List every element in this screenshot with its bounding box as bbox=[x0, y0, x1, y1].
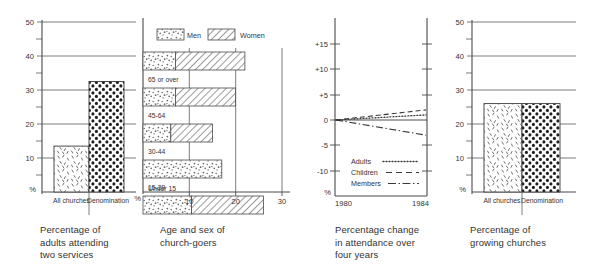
legend-label-women: Women bbox=[240, 31, 265, 40]
caption-line: growing churches bbox=[470, 237, 590, 250]
bar-men-45-64 bbox=[143, 88, 175, 106]
y-tick-label: 10 bbox=[26, 154, 34, 163]
bar-group-30-44: 30-44 bbox=[143, 124, 213, 155]
chart-panel-adults-two-services: 50 40 30 20 10 % All churches Denominati… bbox=[0, 0, 150, 278]
y-tick-label: 0 bbox=[324, 116, 328, 125]
bar-all-churches bbox=[484, 104, 522, 192]
bar-group-65-or-over: 65 or over bbox=[143, 52, 245, 83]
x-tick-label-1984: 1984 bbox=[412, 199, 429, 208]
y-tick-label: 30 bbox=[26, 86, 34, 95]
y-axis-unit-label: % bbox=[459, 185, 466, 194]
bar-group-under-15 bbox=[143, 196, 263, 214]
y-tick-label: 40 bbox=[26, 52, 34, 61]
minor-ticks bbox=[466, 39, 472, 175]
bar-women-65-or-over bbox=[175, 52, 245, 70]
category-label-under-15: Under 15 bbox=[148, 185, 176, 192]
y-tick-label: 50 bbox=[456, 18, 464, 27]
category-label-all-churches: All churches bbox=[53, 197, 91, 204]
minor-ticks bbox=[36, 39, 42, 175]
line-series-adults bbox=[336, 115, 426, 120]
figure-root: 50 40 30 20 10 % All churches Denominati… bbox=[0, 0, 592, 278]
y-tick-label: -5 bbox=[321, 141, 328, 150]
legend-label-men: Men bbox=[187, 31, 201, 40]
legend: Men Women bbox=[157, 29, 265, 40]
bar-denomination bbox=[522, 104, 560, 192]
y-tick-label: 20 bbox=[456, 120, 464, 129]
category-label-45-64: 45-64 bbox=[148, 112, 166, 119]
bar-women-30-44 bbox=[171, 124, 213, 142]
y-tick-label: 50 bbox=[26, 18, 34, 27]
major-ticks bbox=[467, 22, 472, 158]
bar-men-30-44 bbox=[143, 124, 171, 142]
major-ticks bbox=[37, 22, 42, 158]
category-label-denomination: Denomination bbox=[521, 197, 563, 204]
chart-panel-percentage-change: +15 +10 +5 0 -5 -10 % Adults Children Me… bbox=[295, 0, 445, 278]
line-series-children bbox=[336, 110, 426, 120]
y-tick-label: 30 bbox=[456, 86, 464, 95]
category-label-denomination: Denomination bbox=[87, 197, 129, 204]
panel-caption-growing-churches: Percentage of growing churches bbox=[470, 224, 590, 249]
x-tick-label: 10 bbox=[185, 197, 193, 206]
category-label-65-or-over: 65 or over bbox=[148, 76, 179, 83]
bar-men-15-29 bbox=[143, 160, 222, 178]
y-tick-label: 20 bbox=[26, 120, 34, 129]
x-ticks bbox=[189, 192, 282, 196]
y-tick-label: 10 bbox=[456, 154, 464, 163]
category-label-all-churches: All churches bbox=[483, 197, 521, 204]
x-axis-unit-label: % bbox=[134, 194, 141, 203]
legend-label-children: Children bbox=[351, 168, 378, 177]
y-tick-label: +10 bbox=[315, 65, 328, 74]
y-axis-unit-label: % bbox=[29, 185, 36, 194]
bar-women-under-15 bbox=[192, 196, 264, 214]
bar-chart-adults-two-services: 50 40 30 20 10 % All churches Denominati… bbox=[0, 0, 150, 215]
x-tick-label-1980: 1980 bbox=[335, 199, 352, 208]
x-tick-label: 30 bbox=[278, 197, 286, 206]
legend-swatch-men bbox=[157, 29, 184, 40]
chart-panel-age-and-sex: Men Women 65 or bbox=[130, 0, 305, 278]
bar-women-45-64 bbox=[175, 88, 235, 106]
y-tick-label: +5 bbox=[319, 91, 328, 100]
line-chart-percentage-change: +15 +10 +5 0 -5 -10 % Adults Children Me… bbox=[295, 0, 445, 215]
caption-line: Percentage of bbox=[470, 224, 590, 237]
y-tick-label: -10 bbox=[317, 167, 328, 176]
line-series-members bbox=[336, 120, 426, 135]
bar-chart-age-and-sex: Men Women 65 or bbox=[130, 0, 305, 215]
y-tick-label: 40 bbox=[456, 52, 464, 61]
bar-chart-growing-churches: 50 40 30 20 10 % All churches Denominati… bbox=[430, 0, 592, 215]
legend-swatch-women bbox=[208, 29, 235, 40]
chart-panel-growing-churches: 50 40 30 20 10 % All churches Denominati… bbox=[430, 0, 592, 278]
category-label-30-44: 30-44 bbox=[148, 148, 166, 155]
legend-label-members: Members bbox=[351, 179, 381, 188]
bar-men-65-or-over bbox=[143, 52, 175, 70]
x-tick-label: 20 bbox=[231, 197, 239, 206]
bar-all-churches bbox=[54, 146, 89, 192]
y-axis-unit-label: % bbox=[324, 188, 331, 197]
legend: Adults Children Members bbox=[351, 157, 419, 188]
panel-caption-age-and-sex: Age and sex of church-goers bbox=[160, 224, 280, 249]
bar-denomination bbox=[89, 82, 124, 193]
y-tick-label: +15 bbox=[315, 40, 328, 49]
caption-line: church-goers bbox=[160, 237, 280, 250]
legend-label-adults: Adults bbox=[351, 157, 371, 166]
caption-line: Age and sex of bbox=[160, 224, 280, 237]
